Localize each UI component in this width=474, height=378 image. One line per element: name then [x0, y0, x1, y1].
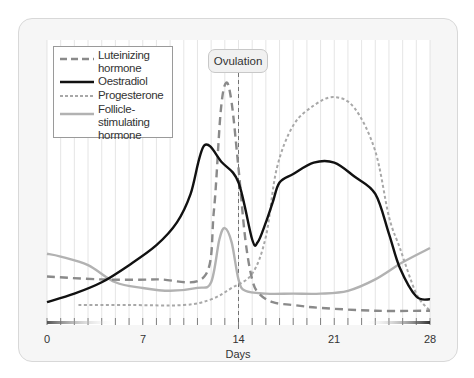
legend-label-fsh-2: hormone — [98, 129, 141, 141]
x-tick-0: 0 — [44, 333, 50, 345]
solid-black-line-icon — [60, 75, 94, 89]
ovulation-label: Ovulation — [208, 49, 268, 73]
legend-label-progesterone: Progesterone — [98, 89, 163, 102]
legend-item-progesterone: Progesterone — [54, 89, 172, 103]
x-tick-28: 28 — [424, 333, 436, 345]
legend-label-fsh-1: Follicle-stimulating — [98, 103, 150, 128]
axis-bar-left — [47, 321, 117, 324]
x-axis-title: Days — [225, 348, 250, 360]
dashed-line-icon — [60, 49, 94, 63]
x-tick-21: 21 — [328, 333, 340, 345]
x-tick-14: 14 — [232, 333, 244, 345]
x-tick-7: 7 — [140, 333, 146, 345]
solid-gray-line-icon — [60, 103, 94, 117]
legend-item-oestradiol: Oestradiol — [54, 75, 172, 89]
axis-bar-right — [362, 321, 430, 324]
legend: Luteinizinghormone Oestradiol Progestero… — [53, 46, 173, 138]
legend-item-lh: Luteinizinghormone — [54, 49, 172, 75]
legend-label-lh-2: hormone — [98, 62, 141, 74]
legend-label-lh-1: Luteinizing — [98, 49, 150, 61]
dotted-line-icon — [60, 89, 94, 103]
legend-item-fsh: Follicle-stimulatinghormone — [54, 103, 172, 142]
legend-label-oestradiol: Oestradiol — [98, 75, 147, 88]
